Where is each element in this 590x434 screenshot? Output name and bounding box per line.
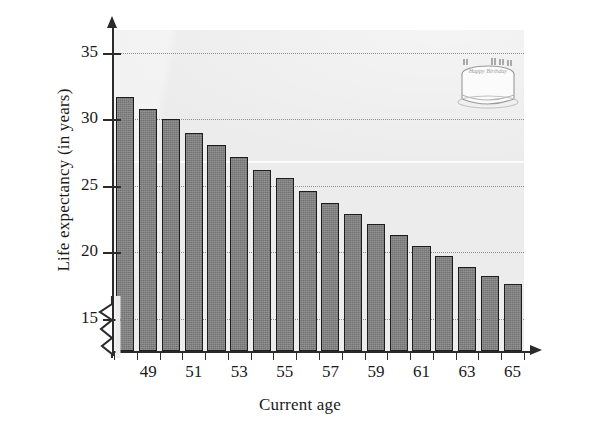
x-tick-62	[433, 351, 434, 360]
x-tick-63	[456, 351, 457, 360]
x-tick-61	[410, 351, 411, 360]
bar-age-64	[481, 276, 499, 351]
x-tick-58	[342, 351, 343, 360]
x-tick-end	[524, 351, 525, 360]
x-tick-label-65: 65	[498, 362, 528, 382]
bar-age-65	[504, 284, 522, 351]
x-axis-arrowhead-icon	[530, 345, 542, 355]
x-tick-60	[387, 351, 388, 360]
bar-age-58	[344, 214, 362, 351]
x-tick-56	[296, 351, 297, 360]
chart-figure: 1520253035 495153555759616365 Happy Birt…	[0, 0, 590, 434]
bar-age-63	[458, 267, 476, 351]
x-tick-label-53: 53	[224, 362, 254, 382]
x-tick-64	[478, 351, 479, 360]
bar-age-55	[276, 178, 294, 351]
bar-age-54	[253, 170, 271, 351]
bar-age-60	[390, 235, 408, 351]
x-tick-54	[251, 351, 252, 360]
x-tick-59	[365, 351, 366, 360]
bar-age-53	[230, 157, 248, 351]
x-tick-label-57: 57	[315, 362, 345, 382]
bar-age-51	[185, 133, 203, 351]
bar-age-49	[139, 109, 157, 351]
bar-age-62	[435, 256, 453, 351]
x-tick-65	[501, 351, 502, 360]
y-tick-30	[103, 119, 121, 121]
x-axis-title: Current age	[190, 395, 410, 415]
x-tick-51	[182, 351, 183, 360]
x-tick-label-49: 49	[133, 362, 163, 382]
bar-age-50	[162, 119, 180, 351]
x-tick-50	[160, 351, 161, 360]
x-tick-label-55: 55	[270, 362, 300, 382]
x-tick-49	[137, 351, 138, 360]
x-tick-label-63: 63	[452, 362, 482, 382]
x-tick-52	[205, 351, 206, 360]
y-tick-35	[103, 53, 121, 55]
x-tick-label-51: 51	[179, 362, 209, 382]
svg-text:Happy Birthday: Happy Birthday	[468, 68, 508, 74]
x-tick-53	[228, 351, 229, 360]
gridline-35	[114, 53, 524, 54]
x-axis-line	[112, 351, 532, 353]
bar-age-57	[321, 203, 339, 351]
bar-age-61	[412, 246, 430, 351]
x-tick-57	[319, 351, 320, 360]
bar-age-52	[207, 145, 225, 351]
x-tick-label-61: 61	[407, 362, 437, 382]
y-axis-break-icon	[96, 296, 130, 362]
y-tick-20	[103, 252, 121, 254]
bar-age-56	[299, 191, 317, 351]
y-axis-arrowhead-icon	[107, 16, 117, 28]
y-axis-title: Life expectancy (in years)	[54, 30, 74, 330]
y-tick-25	[103, 186, 121, 188]
x-tick-label-59: 59	[361, 362, 391, 382]
birthday-cake-illustration: Happy Birthday	[452, 57, 524, 119]
bar-age-59	[367, 224, 385, 351]
x-tick-55	[273, 351, 274, 360]
